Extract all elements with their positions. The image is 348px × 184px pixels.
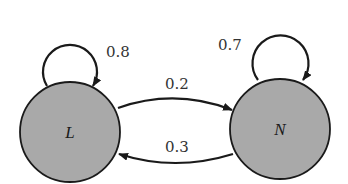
self-loop-L <box>43 45 97 86</box>
state-L-label: L <box>64 123 74 142</box>
loop-N-probability: 0.7 <box>218 36 242 54</box>
state-L: L <box>20 82 120 182</box>
state-N-label: N <box>273 120 287 139</box>
L-to-N-probability: 0.2 <box>165 75 189 93</box>
state-diagram: L N 0.8 0.7 0.2 0.3 <box>0 0 348 184</box>
self-loop-N <box>253 35 309 80</box>
loop-L-probability: 0.8 <box>106 43 130 61</box>
state-N: N <box>230 79 330 179</box>
transition-L-to-N <box>118 98 232 110</box>
N-to-L-probability: 0.3 <box>165 138 189 156</box>
